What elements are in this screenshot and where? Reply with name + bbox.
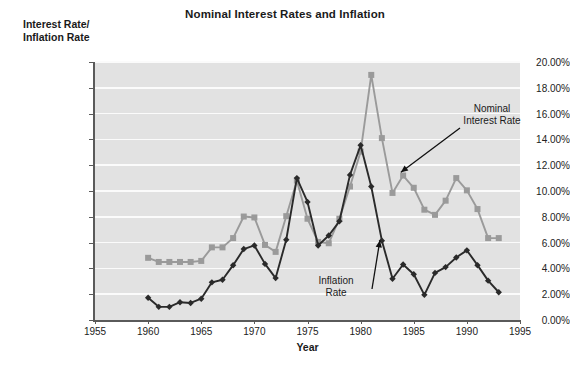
y-tick-mark — [89, 243, 93, 244]
y-tick-label: 6.00% — [484, 237, 570, 248]
y-tick-mark — [89, 139, 93, 140]
y-axis-title-line-1: Interest Rate/ — [23, 18, 143, 31]
x-tick-mark — [414, 320, 415, 324]
x-tick-mark — [520, 320, 521, 324]
y-tick-label: 14.00% — [484, 134, 570, 145]
y-axis-title: Interest Rate/ Inflation Rate — [23, 18, 143, 44]
x-tick-mark — [467, 320, 468, 324]
y-tick-mark — [89, 294, 93, 295]
x-tick-mark — [95, 320, 96, 324]
y-tick-label: 10.00% — [484, 186, 570, 197]
x-tick-mark — [308, 320, 309, 324]
gridline — [95, 268, 520, 270]
x-tick-label: 1960 — [126, 326, 170, 337]
annotation-nominal-line-2: Interest Rate — [463, 115, 520, 126]
chart-container: Nominal Interest Rates and Inflation Int… — [0, 0, 570, 367]
x-tick-mark — [148, 320, 149, 324]
y-tick-mark — [89, 268, 93, 269]
y-tick-label: 0.00% — [484, 315, 570, 326]
y-tick-mark — [89, 114, 93, 115]
x-tick-label: 1980 — [339, 326, 383, 337]
y-tick-label: 20.00% — [484, 57, 570, 68]
gridline — [95, 139, 520, 141]
x-tick-mark — [361, 320, 362, 324]
y-tick-mark — [89, 217, 93, 218]
y-tick-label: 12.00% — [484, 160, 570, 171]
annotation-nominal-line-1: Nominal — [474, 103, 511, 114]
x-tick-label: 1975 — [286, 326, 330, 337]
gridline — [95, 190, 520, 192]
x-tick-mark — [254, 320, 255, 324]
x-tick-mark — [201, 320, 202, 324]
x-tick-label: 1965 — [179, 326, 223, 337]
annotation-nominal-interest-rate: Nominal Interest Rate — [452, 103, 532, 127]
gridline — [95, 164, 520, 166]
x-tick-label: 1955 — [73, 326, 117, 337]
annotation-inflation-line-2: Rate — [325, 287, 346, 298]
y-axis-line — [93, 62, 95, 321]
gridline — [95, 242, 520, 244]
x-tick-label: 1990 — [445, 326, 489, 337]
y-axis-title-line-2: Inflation Rate — [23, 31, 143, 44]
y-tick-label: 18.00% — [484, 82, 570, 93]
x-tick-label: 1970 — [232, 326, 276, 337]
y-tick-mark — [89, 320, 93, 321]
gridline — [95, 216, 520, 218]
y-tick-label: 8.00% — [484, 211, 570, 222]
gridline — [95, 61, 520, 63]
y-tick-mark — [89, 165, 93, 166]
x-tick-label: 1985 — [392, 326, 436, 337]
y-tick-mark — [89, 62, 93, 63]
annotation-inflation-line-1: Inflation — [318, 275, 353, 286]
y-tick-label: 2.00% — [484, 289, 570, 300]
gridline — [95, 87, 520, 89]
y-tick-mark — [89, 191, 93, 192]
x-axis-title: Year — [95, 341, 520, 353]
y-tick-mark — [89, 88, 93, 89]
annotation-inflation-rate: Inflation Rate — [303, 275, 369, 299]
y-tick-label: 4.00% — [484, 263, 570, 274]
x-tick-label: 1995 — [498, 326, 542, 337]
